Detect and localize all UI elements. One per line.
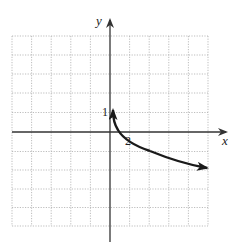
coordinate-plane <box>0 0 229 242</box>
x-axis-label: x <box>222 134 228 147</box>
function-curve-right <box>150 151 207 168</box>
y-tick-label: 1 <box>102 106 108 118</box>
function-curve <box>113 110 150 151</box>
y-axis-label: y <box>96 14 102 27</box>
x-tick-label: 2 <box>125 135 131 147</box>
